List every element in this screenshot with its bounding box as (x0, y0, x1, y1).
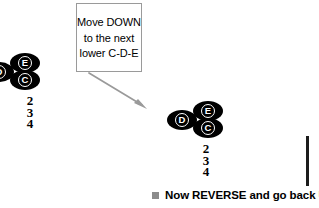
down-right-arrow-icon (85, 68, 155, 116)
note-e-label: E (201, 104, 215, 118)
note-e-label: E (18, 56, 32, 70)
callout-line-2: to the next (77, 31, 141, 47)
note-c: C (193, 118, 223, 138)
note-e: E (193, 101, 223, 121)
note-e: E (10, 53, 40, 73)
fingering-numbers-right: 2 3 4 (195, 143, 217, 178)
callout-line-3: lower C-D-E (77, 46, 141, 62)
caption-text: Now REVERSE and go back UP (165, 189, 319, 201)
vertical-rule (306, 136, 309, 186)
square-bullet-icon (152, 192, 159, 199)
fingering-number: 4 (195, 166, 217, 178)
note-cluster-right: D C E (167, 98, 237, 142)
callout-box: Move DOWN to the next lower C-D-E (76, 3, 142, 72)
fingering-numbers-left: 2 3 4 (19, 95, 41, 130)
callout-line-1: Move DOWN (77, 15, 141, 31)
caption: Now REVERSE and go back UP (152, 189, 319, 201)
note-c-label: C (18, 73, 32, 87)
note-d-label: D (175, 113, 189, 127)
diagram-canvas: Move DOWN to the next lower C-D-E D C E … (0, 0, 319, 208)
fingering-number: 4 (19, 118, 41, 130)
note-cluster-left: D C E (0, 50, 54, 94)
note-c: C (10, 70, 40, 90)
note-d-label: D (0, 65, 6, 79)
note-c-label: C (201, 121, 215, 135)
callout-text: Move DOWN to the next lower C-D-E (77, 15, 141, 62)
